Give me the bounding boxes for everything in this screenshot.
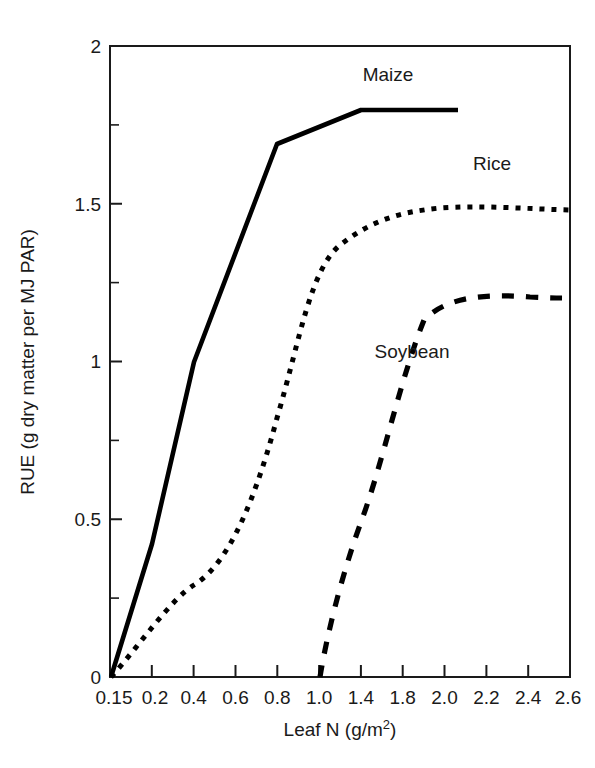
x-tick-label: 2.4 [515,687,542,708]
x-tick-label: 0.8 [264,687,290,708]
series-label-rice: Rice [473,153,511,174]
y-tick-label: 1.5 [75,194,101,215]
x-axis-tick-labels: 0.15 0.2 0.4 0.6 0.8 1.0 1.4 1.8 2.0 2.2… [96,687,582,708]
series-label-maize: Maize [363,64,414,85]
x-tick-label: 0.6 [222,687,248,708]
x-tick-label: 2.0 [431,687,457,708]
x-axis-title: Leaf N (g/m2) [284,717,397,740]
x-tick-label: 0.15 [96,687,133,708]
x-tick-label: 0.4 [180,687,207,708]
y-tick-label: 2 [90,36,101,57]
x-axis-title-superscript: 2 [383,717,390,732]
x-tick-label: 1.4 [348,687,375,708]
x-tick-label: 1.8 [389,687,415,708]
y-tick-label: 1 [90,351,101,372]
rice-line [111,207,570,677]
y-axis-title-text: RUE (g dry matter per MJ PAR) [17,229,38,495]
x-tick-label: 2.2 [473,687,499,708]
x-tick-label: 1.0 [306,687,332,708]
y-axis-title: RUE (g dry matter per MJ PAR) [17,229,38,495]
svg-text:Leaf N (g/m2): Leaf N (g/m2) [284,717,397,740]
x-tick-label: 0.2 [142,687,168,708]
series-rice [111,207,570,677]
figure-page: 0 0.5 1 1.5 2 0.15 0.2 0.4 0.6 [0,0,595,768]
x-axis-ticks [110,665,570,677]
y-tick-label: 0 [90,667,101,688]
rue-vs-leaf-nitrogen-chart: 0 0.5 1 1.5 2 0.15 0.2 0.4 0.6 [0,0,595,768]
y-tick-label: 0.5 [75,509,101,530]
series-label-soybean: Soybean [374,341,449,362]
x-axis-title-tail: ) [390,719,396,740]
x-tick-label: 2.6 [555,687,581,708]
x-axis-title-base: Leaf N (g/m [284,719,383,740]
y-axis-tick-labels: 0 0.5 1 1.5 2 [75,36,101,688]
y-axis-major-ticks [110,46,122,677]
